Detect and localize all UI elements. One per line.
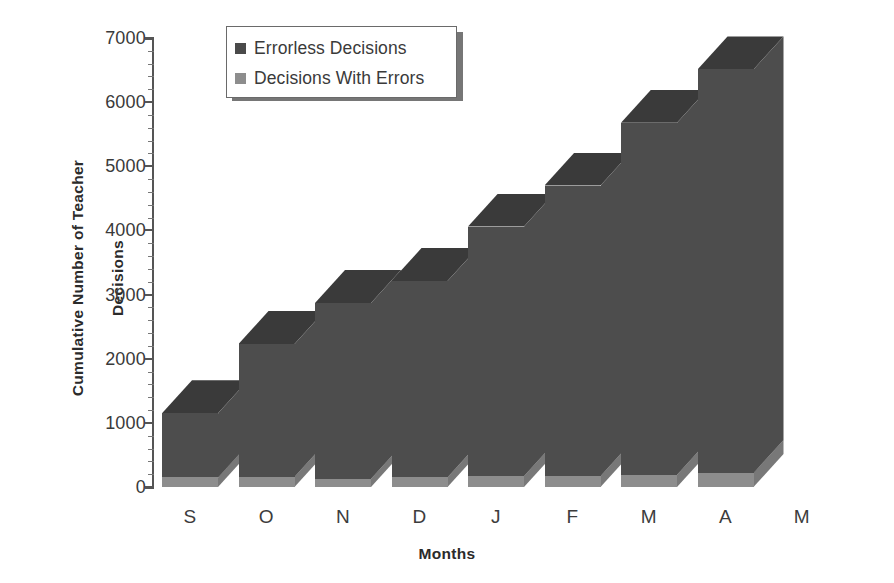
x-axis-tick-label: N — [336, 506, 350, 528]
y-axis-tick-label: 1000 — [105, 412, 146, 433]
y-axis-major-tick — [145, 229, 154, 231]
y-axis-tick-labels: 01000200030004000500060007000 — [78, 0, 146, 583]
x-axis-tick-label: O — [259, 506, 274, 528]
y-axis-tick-label: 2000 — [105, 348, 146, 369]
y-axis-major-tick — [145, 37, 154, 39]
x-axis-title: Months — [0, 545, 894, 563]
legend-item: Decisions With Errors — [235, 63, 448, 93]
x-axis-tick-label: M — [794, 506, 810, 528]
bar-A-decisions-with-errors-front-face — [698, 473, 754, 487]
y-axis-major-tick — [145, 165, 154, 167]
x-axis-tick-label: F — [566, 506, 578, 528]
legend-label: Errorless Decisions — [254, 38, 407, 59]
x-axis-tick-label: M — [641, 506, 657, 528]
legend-swatch-errorless-decisions — [235, 43, 246, 54]
x-axis-tick-label: J — [491, 506, 501, 528]
legend-shadow-side — [457, 32, 463, 98]
bar-A-errorless-decisions-front-face — [698, 69, 754, 472]
y-axis-major-tick — [145, 294, 154, 296]
y-axis-major-tick — [145, 422, 154, 424]
y-axis-major-tick — [145, 358, 154, 360]
y-axis-tick-label: 3000 — [105, 284, 146, 305]
x-axis-tick-labels: SONDJFMAM — [0, 506, 894, 536]
x-axis-tick-label: S — [183, 506, 196, 528]
x-axis-tick-label: A — [719, 506, 732, 528]
bar-chart: Cumulative Number of Teacher Decisions 0… — [0, 0, 894, 583]
legend-item: Errorless Decisions — [235, 33, 448, 63]
y-axis-tick-label: 5000 — [105, 156, 146, 177]
bar-A-errorless-decisions-side-face — [754, 36, 784, 472]
y-axis-tick-label: 7000 — [105, 28, 146, 49]
y-axis-tick-label: 4000 — [105, 220, 146, 241]
y-axis-major-tick — [145, 486, 154, 488]
chart-legend: Errorless Decisions Decisions With Error… — [226, 26, 457, 98]
legend-label: Decisions With Errors — [254, 68, 424, 89]
x-axis-tick-label: D — [412, 506, 426, 528]
y-axis-major-tick — [145, 101, 154, 103]
legend-swatch-decisions-with-errors — [235, 73, 246, 84]
y-axis-tick-label: 6000 — [105, 92, 146, 113]
